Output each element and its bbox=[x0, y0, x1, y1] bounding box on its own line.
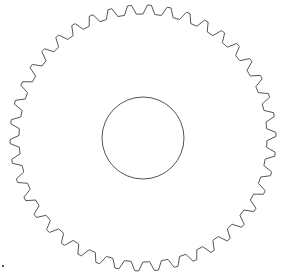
gear-diagram bbox=[0, 0, 282, 277]
corner-marker-dot bbox=[2, 265, 4, 267]
gear-center-bore bbox=[102, 97, 184, 179]
gear-tooth-profile bbox=[10, 5, 276, 271]
